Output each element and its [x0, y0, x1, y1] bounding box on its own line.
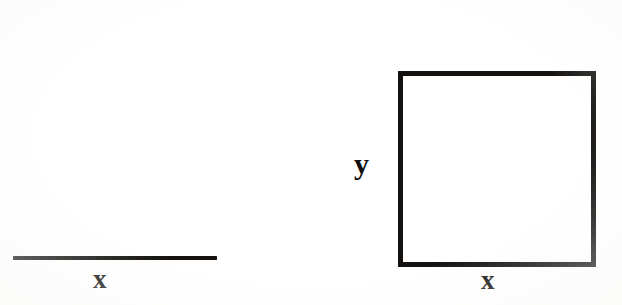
line-segment-x-label: x: [93, 266, 107, 293]
square-x-label: x: [481, 267, 495, 294]
line-segment-stroke: [13, 256, 217, 260]
figure-canvas: x y x: [0, 0, 622, 305]
square-outline: [398, 71, 596, 267]
square-y-label: y: [354, 149, 369, 179]
